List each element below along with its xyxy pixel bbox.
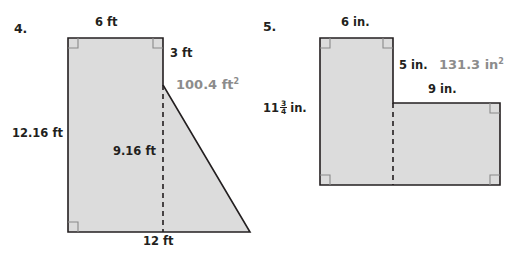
label-step-5in: 5 in. bbox=[399, 60, 428, 72]
fraction-numerator: 3 bbox=[280, 100, 287, 108]
area-answer-value: 131.3 in bbox=[439, 57, 498, 72]
mixed-number: 11 3 4 bbox=[263, 100, 287, 117]
fraction: 3 4 bbox=[280, 100, 287, 117]
trapezoid-outline bbox=[68, 38, 250, 232]
problem-5: 5. 6 in. 5 in. 9 in. 11 3 4 in. bbox=[261, 0, 523, 254]
area-answer-exponent: 2 bbox=[498, 57, 504, 66]
area-answer-value: 100.4 ft bbox=[176, 77, 234, 92]
label-left-11-3-4in: 11 3 4 in. bbox=[263, 100, 307, 117]
mixed-number-whole: 11 bbox=[263, 103, 279, 115]
unit-label: in. bbox=[290, 101, 307, 115]
label-top-6ft: 6 ft bbox=[95, 17, 118, 29]
problem-4: 4. 6 ft 3 ft 12.16 ft 9.16 ft 12 ft 100.… bbox=[0, 0, 261, 254]
label-top-6in: 6 in. bbox=[341, 17, 370, 29]
label-left-12-16ft: 12.16 ft bbox=[12, 128, 63, 140]
label-right-3ft: 3 ft bbox=[170, 48, 193, 60]
label-bottom-12ft: 12 ft bbox=[143, 236, 174, 248]
area-answer-100-4: 100.4 ft2 bbox=[176, 78, 239, 91]
label-dashed-9-16ft: 9.16 ft bbox=[113, 146, 156, 158]
fraction-denominator: 4 bbox=[280, 107, 287, 116]
problem-5-figure bbox=[261, 0, 523, 254]
worksheet-page: 4. 6 ft 3 ft 12.16 ft 9.16 ft 12 ft 100.… bbox=[0, 0, 523, 254]
area-answer-exponent: 2 bbox=[234, 77, 240, 86]
label-step-top-9in: 9 in. bbox=[428, 84, 457, 96]
area-answer-131-3: 131.3 in2 bbox=[439, 58, 504, 71]
